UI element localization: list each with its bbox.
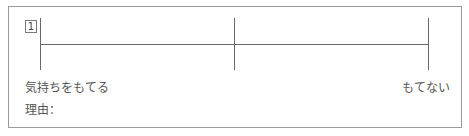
item-number-box: 1	[25, 20, 37, 33]
scale-tick-left[interactable]	[40, 18, 41, 70]
scale-tick-middle[interactable]	[234, 18, 235, 70]
scale-tick-right[interactable]	[428, 18, 429, 70]
scale-right-label: もてない	[402, 78, 450, 95]
reason-label: 理由：	[25, 100, 61, 117]
question-frame	[8, 6, 462, 128]
scale-left-label: 気持ちをもてる	[25, 78, 109, 95]
